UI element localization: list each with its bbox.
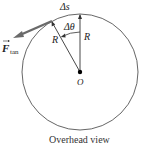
- angle-arc-arrowhead: [61, 34, 66, 38]
- force-label: F: [1, 42, 10, 54]
- rotation-diagram: Δs Δθ R R O F tan Overhead view: [0, 0, 144, 145]
- force-subscript: tan: [10, 48, 19, 56]
- arc-label: Δs: [59, 1, 70, 12]
- radius-right-label: R: [83, 31, 90, 42]
- angle-label: Δθ: [63, 21, 75, 32]
- force-vector: [20, 21, 52, 35]
- radius-vertical-arrowhead: [78, 14, 82, 19]
- center-dot: [78, 70, 82, 74]
- center-label: O: [77, 77, 84, 87]
- radius-left-label: R: [51, 34, 58, 45]
- caption: Overhead view: [49, 134, 111, 145]
- force-arrowhead: [13, 31, 24, 38]
